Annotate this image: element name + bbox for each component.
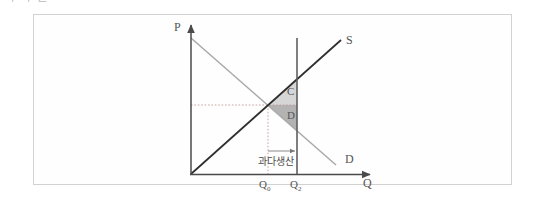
demand-curve-label: D (345, 152, 354, 166)
y-axis-label: P (174, 20, 181, 34)
tick-label-q0: Q0 (259, 178, 271, 193)
supply-curve-label: S (346, 33, 353, 47)
tick-label-q2: Q2 (290, 178, 302, 193)
tick-label-q0-base: Q (259, 178, 267, 190)
overproduction-annotation-label: 과다생산 (258, 156, 294, 167)
demand-curve (191, 38, 336, 165)
supply-demand-diagram: P Q S D C D Q0 Q2 과다생산 (0, 0, 537, 209)
region-c-label: C (287, 85, 294, 97)
tick-label-q2-base: Q (290, 178, 298, 190)
tick-label-q0-sub: 0 (267, 185, 271, 193)
region-d-label: D (287, 109, 295, 121)
supply-curve (191, 40, 341, 174)
tick-label-q2-sub: 2 (298, 185, 302, 193)
x-axis-label: Q (363, 176, 372, 190)
